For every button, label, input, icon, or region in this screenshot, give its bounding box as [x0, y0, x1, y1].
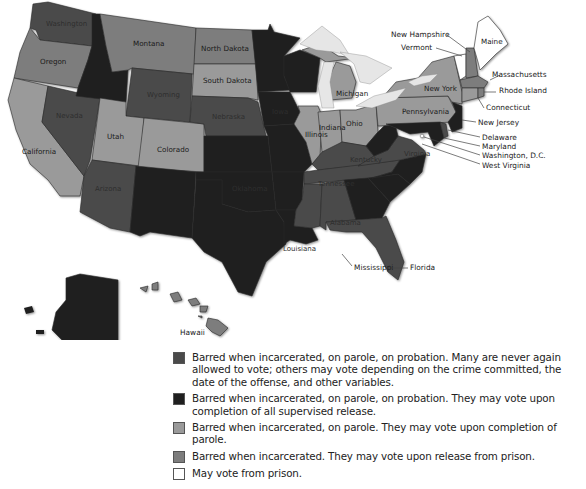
state-wisconsin[interactable] — [284, 50, 320, 92]
state-connecticut[interactable] — [462, 88, 478, 102]
svg-text:Michigan: Michigan — [336, 89, 368, 98]
legend-text-cat4: Barred when incarcerated. They may vote … — [192, 450, 535, 462]
state-massachusetts[interactable] — [460, 76, 488, 88]
legend-text-cat5: May vote from prison. — [192, 467, 302, 479]
svg-text:Nebraska: Nebraska — [212, 113, 245, 121]
svg-text:Iowa: Iowa — [272, 108, 288, 116]
svg-text:Rhode Island: Rhode Island — [499, 86, 547, 95]
state-alaska[interactable] — [42, 274, 154, 340]
svg-text:Massachusetts: Massachusetts — [492, 70, 547, 79]
svg-text:West Virginia: West Virginia — [482, 161, 530, 170]
map-svg: Washington Oregon California Nevada Mont… — [0, 0, 586, 340]
state-kansas[interactable] — [204, 136, 272, 172]
legend-text-cat2: Barred when incarcerated, on parole, on … — [192, 392, 583, 417]
svg-text:Montana: Montana — [133, 39, 164, 48]
svg-text:Delaware: Delaware — [482, 133, 517, 142]
svg-text:Colorado: Colorado — [157, 145, 189, 154]
legend-item-cat5: May vote from prison. — [173, 467, 583, 480]
legend-swatch-cat3 — [173, 422, 185, 434]
svg-text:Maine: Maine — [481, 37, 503, 46]
svg-text:Utah: Utah — [107, 132, 124, 141]
legend-text-cat1: Barred when incarcerated, on parole, on … — [192, 351, 583, 388]
state-rhode-island[interactable] — [478, 88, 484, 98]
svg-text:New Jersey: New Jersey — [478, 118, 520, 127]
svg-text:Connecticut: Connecticut — [486, 103, 530, 112]
svg-text:Alabama: Alabama — [330, 219, 361, 227]
svg-text:South Dakota: South Dakota — [203, 76, 252, 85]
legend-item-cat2: Barred when incarcerated, on parole, on … — [173, 392, 583, 417]
svg-text:Indiana: Indiana — [319, 123, 346, 132]
legend: Barred when incarcerated, on parole, on … — [173, 351, 583, 484]
legend-item-cat3: Barred when incarcerated, on parole. The… — [173, 421, 583, 446]
state-new-mexico[interactable] — [130, 166, 196, 238]
svg-text:Washington: Washington — [46, 20, 87, 28]
svg-text:Maryland: Maryland — [482, 142, 517, 151]
svg-text:Hawaii: Hawaii — [180, 328, 205, 337]
svg-text:Tennessee: Tennessee — [317, 180, 354, 188]
legend-swatch-cat2 — [173, 393, 185, 405]
svg-text:Kentucky: Kentucky — [350, 156, 382, 164]
state-alaska-islands — [8, 306, 44, 340]
svg-text:Oklahoma: Oklahoma — [232, 185, 268, 193]
svg-text:Wyoming: Wyoming — [147, 91, 180, 99]
legend-swatch-cat4 — [173, 451, 185, 463]
legend-swatch-cat1 — [173, 352, 185, 364]
svg-text:Nevada: Nevada — [56, 112, 83, 120]
svg-text:Ohio: Ohio — [346, 119, 363, 128]
svg-text:Washington, D.C.: Washington, D.C. — [482, 151, 546, 160]
svg-text:New Hampshire: New Hampshire — [391, 30, 450, 39]
svg-text:North Dakota: North Dakota — [201, 44, 249, 53]
svg-text:Louisiana: Louisiana — [283, 245, 316, 253]
svg-text:New York: New York — [424, 84, 458, 93]
svg-text:Florida: Florida — [410, 263, 435, 272]
svg-text:Mississippi: Mississippi — [354, 263, 393, 272]
state-arizona[interactable] — [80, 160, 136, 232]
svg-text:Virginia: Virginia — [404, 150, 430, 158]
svg-text:Arizona: Arizona — [95, 185, 121, 193]
svg-text:Vermont: Vermont — [401, 43, 432, 52]
legend-item-cat1: Barred when incarcerated, on parole, on … — [173, 351, 583, 388]
state-dc[interactable] — [420, 134, 424, 138]
legend-item-cat4: Barred when incarcerated. They may vote … — [173, 450, 583, 463]
svg-text:Pennsylvania: Pennsylvania — [402, 107, 449, 116]
legend-swatch-cat5 — [173, 468, 185, 480]
legend-text-cat3: Barred when incarcerated, on parole. The… — [192, 421, 583, 446]
svg-text:California: California — [22, 147, 56, 156]
svg-text:Oregon: Oregon — [40, 57, 66, 66]
